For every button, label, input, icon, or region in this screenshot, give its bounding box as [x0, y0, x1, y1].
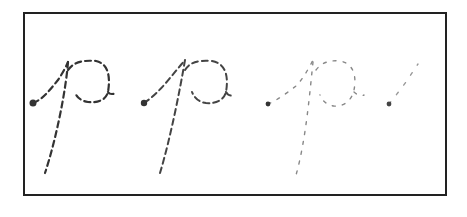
- start-dot-2: [141, 100, 147, 106]
- start-dot-1: [30, 100, 37, 107]
- letter-p-trace-2: [144, 60, 234, 173]
- letter-p-trace-4: [389, 64, 418, 104]
- letter-p-trace-3: [268, 60, 364, 175]
- tracing-canvas: [0, 0, 467, 217]
- start-dot-3: [266, 102, 271, 107]
- start-dot-4: [387, 102, 392, 107]
- letter-p-trace-1: [33, 61, 116, 173]
